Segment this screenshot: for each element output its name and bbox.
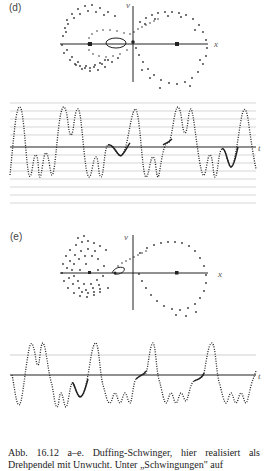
x-axis-label: x bbox=[213, 39, 218, 49]
fixed-point-left bbox=[88, 271, 91, 274]
time-series-curve bbox=[10, 107, 256, 177]
v-axis-label: v bbox=[124, 232, 128, 242]
caption-line-2: Drehpendel mit Unwucht. Unter „Schwingun… bbox=[8, 459, 260, 471]
right-lobe-dots bbox=[138, 241, 207, 317]
figure-caption: Abb. 16.12 a–e. Duffing-Schwinger, hier … bbox=[8, 447, 260, 471]
fixed-point-right bbox=[175, 271, 179, 275]
x-axis-label: x bbox=[217, 269, 222, 279]
fixed-point-right bbox=[175, 42, 179, 46]
panel-e-time-series: t bbox=[0, 335, 267, 415]
left-lobe-dots bbox=[61, 4, 119, 72]
v-axis-label: v bbox=[126, 0, 130, 10]
t-axis-label: t bbox=[258, 143, 261, 153]
panel-e-phase-portrait: v x bbox=[0, 228, 267, 323]
fixed-point-origin bbox=[131, 40, 135, 44]
left-lobe-dots bbox=[61, 235, 109, 298]
right-lobe-dots bbox=[135, 11, 208, 95]
caption-line-1: Abb. 16.12 a–e. Duffing-Schwinger, hier … bbox=[8, 447, 260, 459]
fixed-point-left bbox=[88, 42, 92, 46]
attractor-loop bbox=[106, 38, 126, 48]
fixed-point-origin bbox=[114, 272, 117, 275]
t-axis-label: t bbox=[258, 371, 261, 381]
panel-d-phase-portrait: v x bbox=[0, 0, 267, 95]
panel-d-time-series: t bbox=[0, 95, 267, 213]
